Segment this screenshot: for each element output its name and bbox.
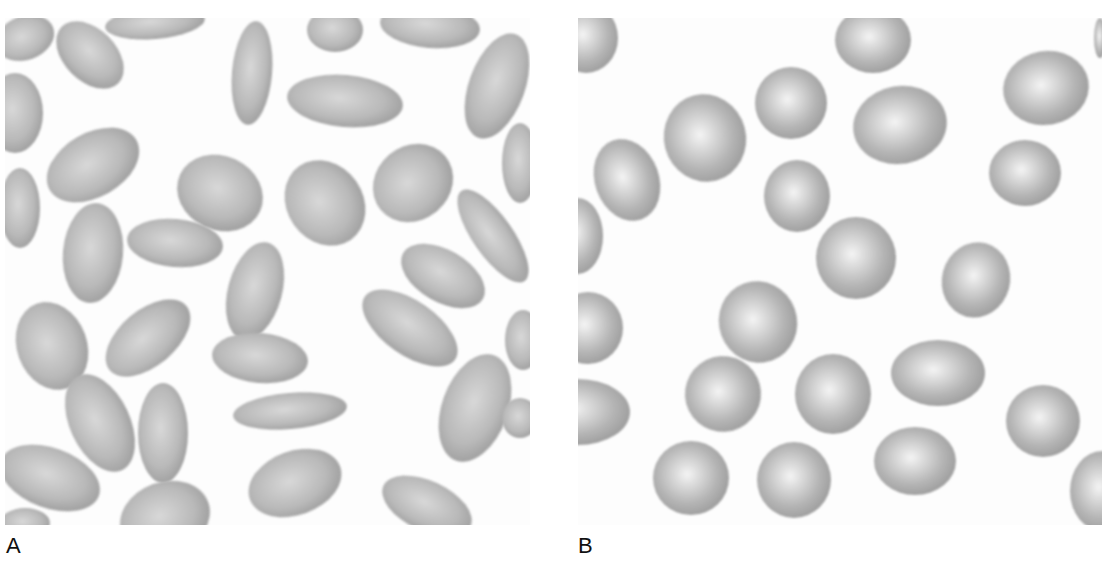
red-blood-cell [216,236,294,347]
red-blood-cell [373,463,481,525]
red-blood-cell [104,18,206,43]
red-blood-cell [59,201,127,306]
red-blood-cell [755,67,827,139]
red-blood-cell [795,354,871,434]
red-blood-cell [578,379,630,445]
micrograph-panel-b [578,18,1102,525]
red-blood-cell [5,508,50,525]
red-blood-cell [92,284,205,391]
red-blood-cell [578,198,603,274]
red-blood-cell [989,140,1061,206]
red-blood-cell [268,144,382,261]
red-blood-cell [891,340,985,406]
panel-label-b: B [578,535,593,557]
red-blood-cell [228,19,277,126]
red-blood-cell [1094,18,1102,58]
red-blood-cell [654,85,756,191]
red-blood-cell [505,310,530,370]
red-blood-cell [378,18,481,52]
red-blood-cell [210,329,310,387]
red-blood-cell [307,18,363,52]
red-blood-cell [138,383,188,483]
red-blood-cell [285,70,405,132]
micrograph-panel-a [5,18,530,525]
elliptocyte-cells-image [5,18,530,525]
red-blood-cell [232,388,349,434]
red-blood-cell [933,234,1018,325]
red-blood-cell [757,442,831,518]
red-blood-cell [5,18,61,69]
red-blood-cell [1070,451,1102,525]
red-blood-cell [816,217,896,299]
panel-label-a: A [6,535,21,557]
red-blood-cell [502,123,530,203]
red-blood-cell [34,112,153,217]
red-blood-cell [578,18,618,73]
red-blood-cell [357,128,469,239]
red-blood-cell [874,427,956,495]
red-blood-cell [5,73,43,153]
red-blood-cell [1006,385,1080,457]
red-blood-cell [847,78,953,171]
round-cells-image [578,18,1102,525]
red-blood-cell [997,44,1095,132]
red-blood-cell [835,18,911,73]
red-blood-cell [764,160,830,232]
red-blood-cell [5,168,40,248]
red-blood-cell [653,441,729,515]
red-blood-cell [239,437,351,525]
red-blood-cell [578,292,623,364]
